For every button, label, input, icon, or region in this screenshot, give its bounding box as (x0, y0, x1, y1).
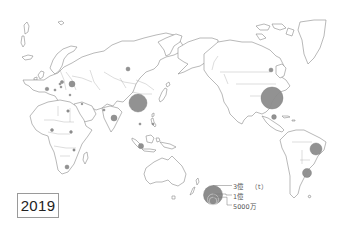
symbol-china (129, 94, 147, 112)
symbol-india (111, 115, 117, 121)
symbol-italy (54, 89, 56, 91)
legend-unit: （t） (251, 181, 268, 191)
legend-label-100m: 1億 (233, 191, 244, 201)
year-label-box: 2019 (17, 193, 59, 218)
eurasia-africa-landmass (21, 21, 199, 199)
symbol-indonesia (138, 143, 143, 148)
legend-label-300m: 3億 (233, 181, 244, 191)
symbol-russia (126, 67, 130, 71)
year-label: 2019 (21, 197, 56, 214)
symbol-south-africa (65, 165, 69, 169)
symbol-turkey (69, 94, 71, 96)
symbol-argentina (303, 169, 312, 178)
symbol-canada (269, 68, 273, 72)
symbol-united-states (261, 87, 283, 109)
symbol-france (45, 87, 49, 91)
symbol-philippines (152, 123, 154, 125)
symbol-nigeria (51, 129, 54, 132)
symbol-iran (81, 103, 83, 105)
world-map: 3億 （t） 1億 5000万 2019 (0, 0, 353, 236)
symbol-pakistan (103, 109, 105, 111)
symbol-hungary (59, 83, 61, 85)
symbol-egypt (67, 110, 70, 113)
legend-symbols (204, 186, 233, 206)
symbol-vietnam (139, 123, 141, 125)
symbol-ukraine (69, 81, 75, 87)
symbol-serbia (60, 86, 62, 88)
symbol-mexico (272, 115, 277, 120)
symbol-ethiopia (70, 131, 73, 134)
symbol-brazil (310, 143, 322, 155)
legend-label-50m: 5000万 (233, 201, 257, 211)
legend-circle-300m (204, 186, 223, 205)
symbol-tanzania (73, 149, 75, 151)
